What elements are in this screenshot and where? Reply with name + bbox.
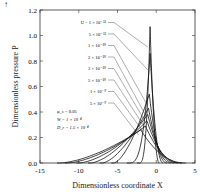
svg-text:φ_s = 0.05: φ_s = 0.05 [57,109,77,114]
svg-text:0.8: 0.8 [28,58,37,66]
svg-text:3 × 10⁻¹⁰: 3 × 10⁻¹⁰ [88,66,106,71]
svg-text:0.2: 0.2 [28,134,37,142]
svg-text:5: 5 [193,167,197,175]
svg-text:D_r = 1.5 × 10⁻⁴: D_r = 1.5 × 10⁻⁴ [56,125,89,130]
svg-text:0: 0 [155,167,159,175]
parameter-annotations: φ_s = 0.05W = 1 × 10⁻⁴D_r = 1.5 × 10⁻⁴ [56,109,89,130]
svg-text:0.0: 0.0 [28,160,37,168]
svg-text:5 × 10⁻¹¹: 5 × 10⁻¹¹ [89,32,107,37]
svg-text:-10: -10 [74,167,84,175]
svg-text:1.2: 1.2 [28,7,37,15]
svg-text:-5: -5 [115,167,121,175]
svg-text:1.0: 1.0 [28,32,37,40]
svg-text:1 × 10⁻⁹: 1 × 10⁻⁹ [90,89,107,94]
svg-text:2 × 10⁻¹⁰: 2 × 10⁻¹⁰ [88,55,106,60]
svg-text:U = 1 × 10⁻¹¹: U = 1 × 10⁻¹¹ [81,20,107,25]
svg-text:5 × 10⁻⁹: 5 × 10⁻⁹ [90,101,107,106]
svg-text:W = 1 × 10⁻⁴: W = 1 × 10⁻⁴ [57,117,82,122]
svg-text:5 × 10⁻¹⁰: 5 × 10⁻¹⁰ [88,78,106,83]
svg-text:-15: -15 [35,167,45,175]
pressure-chart: -15-10-5050.00.20.40.60.81.01.2 U = 1 × … [0,0,200,192]
svg-text:1 × 10⁻¹⁰: 1 × 10⁻¹⁰ [88,43,106,48]
svg-text:0.6: 0.6 [28,83,37,91]
y-axis-label: Dimensionless pressure P [11,32,20,142]
legend-labels: U = 1 × 10⁻¹¹5 × 10⁻¹¹1 × 10⁻¹⁰2 × 10⁻¹⁰… [81,20,148,135]
x-axis-label: Dimensionless coordinate X [40,181,195,190]
curves [57,27,186,163]
axes-frame: -15-10-5050.00.20.40.60.81.01.2 [28,7,197,176]
svg-text:0.4: 0.4 [28,109,37,117]
